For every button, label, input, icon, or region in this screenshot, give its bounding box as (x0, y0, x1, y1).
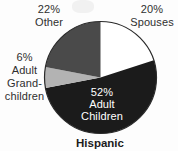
label-spouses-pct: 20% (124, 3, 178, 16)
label-other-pct: 22% (20, 3, 78, 16)
label-adult-children-line3: Children (72, 110, 132, 122)
label-adult-children-line2: Adult (72, 98, 132, 110)
label-spouses: 20% Spouses (124, 3, 178, 28)
label-grandchildren-line2: Adult (0, 64, 49, 77)
label-grandchildren-line3: Grand- (0, 77, 49, 90)
label-other-name: Other (20, 16, 78, 29)
label-spouses-name: Spouses (124, 16, 178, 29)
label-grandchildren-line4: children (0, 90, 49, 103)
label-grandchildren: 6% Adult Grand- children (0, 51, 49, 103)
label-adult-children-pct: 52% (72, 86, 132, 98)
pie-chart-figure: 22% Other 20% Spouses 6% Adult Grand- ch… (0, 0, 178, 151)
label-grandchildren-pct: 6% (0, 51, 49, 64)
label-other: 22% Other (20, 3, 78, 28)
chart-title: Hispanic (30, 137, 170, 149)
label-adult-children: 52% Adult Children (72, 86, 132, 122)
